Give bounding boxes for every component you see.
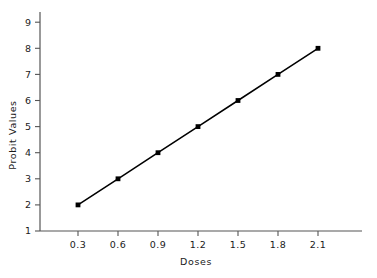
data-point-marker: [196, 124, 201, 129]
y-tick-label: 5: [25, 121, 31, 132]
data-point-marker: [316, 46, 321, 51]
x-axis-label: Doses: [180, 256, 212, 267]
x-tick-label: 0.6: [110, 239, 126, 250]
data-point-marker: [156, 150, 161, 155]
x-tick-label: 1.5: [230, 239, 246, 250]
y-tick-label: 6: [25, 95, 31, 106]
data-point-marker: [276, 72, 281, 77]
y-tick-label: 8: [25, 43, 31, 54]
y-tick-label: 7: [25, 69, 31, 80]
x-tick-label: 2.1: [310, 239, 326, 250]
y-tick-label: 2: [25, 199, 31, 210]
chart-background: [0, 0, 377, 278]
probit-chart-figure: 987654321 0.30.60.91.21.51.82.1 Probit V…: [0, 0, 377, 278]
x-tick-label: 1.2: [190, 239, 206, 250]
data-point-marker: [76, 203, 81, 208]
y-tick-label: 1: [25, 225, 31, 236]
x-tick-label: 0.9: [150, 239, 166, 250]
data-point-marker: [236, 98, 241, 103]
y-tick-label: 3: [25, 173, 31, 184]
x-tick-label: 0.3: [70, 239, 86, 250]
chart-canvas: 987654321 0.30.60.91.21.51.82.1 Probit V…: [0, 0, 377, 278]
x-tick-label: 1.8: [270, 239, 286, 250]
y-tick-label: 4: [25, 147, 31, 158]
data-point-marker: [116, 176, 121, 181]
y-tick-label: 9: [25, 17, 31, 28]
y-axis-label: Probit Values: [7, 100, 18, 169]
